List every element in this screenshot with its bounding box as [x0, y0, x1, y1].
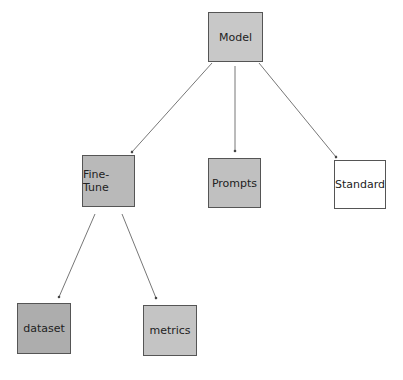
edge-model-finetune — [132, 63, 212, 152]
edge-finetune-dataset — [59, 214, 95, 297]
node-label: Model — [219, 31, 252, 44]
node-label: Prompts — [212, 177, 257, 190]
node-dataset: dataset — [17, 303, 71, 354]
node-label: Fine-Tune — [83, 168, 134, 194]
node-standard: Standard — [334, 160, 386, 209]
node-metrics: metrics — [143, 305, 197, 356]
node-model: Model — [208, 12, 263, 62]
node-label: Standard — [335, 178, 385, 191]
node-label: metrics — [149, 324, 190, 337]
edge-finetune-metrics — [122, 214, 156, 298]
node-fine-tune: Fine-Tune — [82, 155, 135, 207]
edge-model-standard — [259, 63, 336, 157]
node-prompts: Prompts — [208, 158, 261, 208]
node-label: dataset — [23, 322, 65, 335]
